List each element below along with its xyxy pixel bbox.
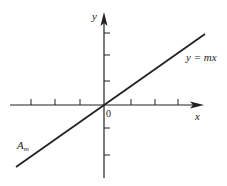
origin-label: 0 <box>106 108 111 119</box>
x-axis-label: x <box>194 110 200 122</box>
y-axis <box>101 12 111 178</box>
y-axis-label: y <box>91 10 97 22</box>
line-y-equals-mx <box>16 34 205 167</box>
point-a-label: Am <box>16 139 29 153</box>
y-axis-ticks <box>104 33 110 155</box>
point-a-subscript: m <box>24 145 29 153</box>
line-equation-label: y = mx <box>185 51 217 63</box>
coordinate-diagram: y x 0 y = mx Am <box>0 0 227 186</box>
